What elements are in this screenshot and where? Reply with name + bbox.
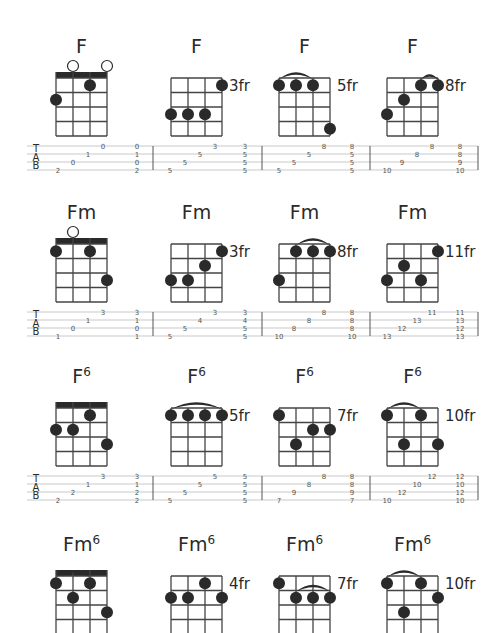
tab-note: 10 <box>275 333 284 341</box>
tab-note: 11 <box>428 309 437 317</box>
finger-dot-icon <box>415 577 427 589</box>
fret-position-label: 10fr <box>445 575 476 593</box>
finger-dot-icon <box>101 606 113 618</box>
finger-dot-icon <box>307 245 319 257</box>
chord-name-root: F <box>72 365 83 387</box>
finger-dot-icon <box>101 274 113 286</box>
tab-note: 5 <box>213 473 217 481</box>
chord-name-superscript: 6 <box>92 533 100 547</box>
chord-name-root: Fm <box>286 533 315 555</box>
chord-row-4: Fm6Fm64frFm67frFm610fr <box>50 533 476 633</box>
tab-clef-letter: B <box>33 326 40 337</box>
tab-chord-note: 5 <box>243 473 247 481</box>
finger-dot-icon <box>415 79 427 91</box>
finger-dot-icon <box>324 123 336 135</box>
chord-diagram: Fm8fr <box>273 201 359 302</box>
fret-position-label: 3fr <box>229 243 251 261</box>
fret-position-label: 10fr <box>445 407 476 425</box>
finger-dot-icon <box>307 79 319 91</box>
finger-dot-icon <box>415 274 427 286</box>
tab-chord-note: 1 <box>135 333 139 341</box>
finger-dot-icon <box>165 592 177 604</box>
chord-name-root: Fm <box>394 533 423 555</box>
tab-chord-note: 1 <box>135 481 139 489</box>
finger-dot-icon <box>432 245 444 257</box>
nut-bar <box>56 72 107 78</box>
chord-diagram: Fm <box>50 201 113 302</box>
chord-name: F6 <box>295 365 314 387</box>
chord-name: F <box>191 35 202 57</box>
tab-chord-note: 8 <box>458 151 462 159</box>
tab-chord-note: 5 <box>350 167 354 175</box>
tab-note: 8 <box>415 151 419 159</box>
tab-note: 9 <box>400 159 404 167</box>
chord-name-root: F <box>295 365 306 387</box>
tab-chord-note: 2 <box>135 489 139 497</box>
nut-bar <box>56 402 107 408</box>
tab-chord-note: 3 <box>135 309 139 317</box>
finger-dot-icon <box>67 592 79 604</box>
tab-chord-note: 5 <box>243 333 247 341</box>
chord-diagram: Fm67fr <box>273 533 359 633</box>
finger-dot-icon <box>67 424 79 436</box>
tab-note: 1 <box>56 333 60 341</box>
finger-dot-icon <box>290 245 302 257</box>
tab-note: 10 <box>413 481 422 489</box>
finger-dot-icon <box>273 409 285 421</box>
finger-dot-icon <box>273 274 285 286</box>
chord-name: Fm6 <box>63 533 100 555</box>
finger-dot-icon <box>84 79 96 91</box>
tab-note: 1 <box>86 151 90 159</box>
chord-name-root: Fm <box>290 201 319 223</box>
tab-note: 8 <box>322 143 326 151</box>
tab-note: 1 <box>86 317 90 325</box>
finger-dot-icon <box>182 108 194 120</box>
tab-chord-note: 13 <box>456 317 465 325</box>
chord-diagram: F8fr <box>381 35 467 136</box>
tab-note: 12 <box>398 325 407 333</box>
tab-chord-note: 1 <box>135 151 139 159</box>
open-string-icon <box>68 227 79 238</box>
tab-chord-note: 5 <box>243 489 247 497</box>
finger-dot-icon <box>398 438 410 450</box>
chord-name-root: F <box>403 365 414 387</box>
finger-dot-icon <box>432 79 444 91</box>
chord-diagram: F610fr <box>381 365 476 466</box>
chord-diagram: F6 <box>50 365 113 466</box>
chord-name-root: F <box>299 35 310 57</box>
tab-note: 8 <box>430 143 434 151</box>
finger-dot-icon <box>182 592 194 604</box>
chord-diagram: Fm6 <box>50 533 113 633</box>
tab-note: 5 <box>277 167 281 175</box>
tab-note: 9 <box>292 489 296 497</box>
fret-position-label: 8fr <box>445 77 467 95</box>
tab-note: 5 <box>168 333 172 341</box>
chord-name: Fm <box>398 201 427 223</box>
tab-chord-note: 0 <box>135 143 139 151</box>
tab-note: 8 <box>307 317 311 325</box>
finger-dot-icon <box>84 245 96 257</box>
finger-dot-icon <box>432 438 444 450</box>
tab-note: 8 <box>322 309 326 317</box>
tab-chord-note: 12 <box>456 473 465 481</box>
finger-dot-icon <box>199 409 211 421</box>
tab-note: 10 <box>383 497 392 505</box>
chord-name-superscript: 6 <box>423 533 431 547</box>
tab-chord-note: 3 <box>135 473 139 481</box>
chord-sheet: FF3frF5frF8frTAB220011005555553355555588… <box>0 0 501 633</box>
finger-dot-icon <box>381 108 393 120</box>
tab-note: 2 <box>71 489 75 497</box>
chord-name-root: Fm <box>398 201 427 223</box>
tab-chord-note: 4 <box>243 317 248 325</box>
finger-dot-icon <box>307 424 319 436</box>
tab-chord-note: 3 <box>243 143 247 151</box>
chord-diagram: F3fr <box>165 35 251 136</box>
finger-dot-icon <box>381 409 393 421</box>
finger-dot-icon <box>415 409 427 421</box>
tab-chord-note: 3 <box>243 309 247 317</box>
tab-note: 8 <box>292 325 296 333</box>
tab-chord-note: 0 <box>135 325 139 333</box>
finger-dot-icon <box>290 592 302 604</box>
tab-note: 7 <box>277 497 281 505</box>
tab-chord-note: 8 <box>350 317 354 325</box>
